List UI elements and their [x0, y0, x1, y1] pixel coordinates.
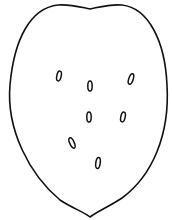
- strawberry-drawing: [0, 0, 172, 220]
- fruit-outline: [10, 5, 168, 217]
- seed-2: [88, 81, 92, 91]
- seed-4: [87, 112, 91, 122]
- seed-5: [120, 112, 126, 123]
- seed-7: [95, 157, 101, 169]
- seed-1: [56, 71, 62, 82]
- seeds-group: [56, 71, 135, 169]
- seed-3: [127, 73, 135, 85]
- seed-6: [68, 137, 77, 149]
